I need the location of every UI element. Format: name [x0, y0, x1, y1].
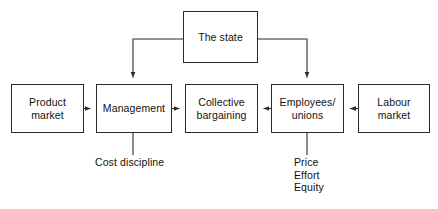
annotation-price-effort-equity: Price Effort Equity [294, 156, 324, 194]
node-collective-bargaining[interactable]: Collective bargaining [185, 84, 258, 133]
node-the-state[interactable]: The state [183, 11, 258, 63]
node-management[interactable]: Management [96, 84, 172, 133]
annotation-cost-discipline: Cost discipline [95, 156, 164, 169]
connector-state-to-employees-unions [258, 39, 307, 78]
node-collective-bargaining-label: Collective bargaining [196, 96, 246, 121]
node-labour-market[interactable]: Labour market [358, 84, 430, 133]
diagram-canvas: The state Product market Management Coll… [0, 0, 438, 209]
node-product-market[interactable]: Product market [11, 84, 84, 133]
node-the-state-label: The state [198, 31, 243, 43]
node-employees-unions-label: Employees/ unions [280, 96, 336, 121]
node-product-market-label: Product market [29, 96, 66, 121]
node-labour-market-label: Labour market [377, 96, 410, 121]
node-management-label: Management [103, 102, 165, 114]
connector-state-to-management [133, 39, 183, 78]
node-employees-unions[interactable]: Employees/ unions [271, 84, 344, 133]
